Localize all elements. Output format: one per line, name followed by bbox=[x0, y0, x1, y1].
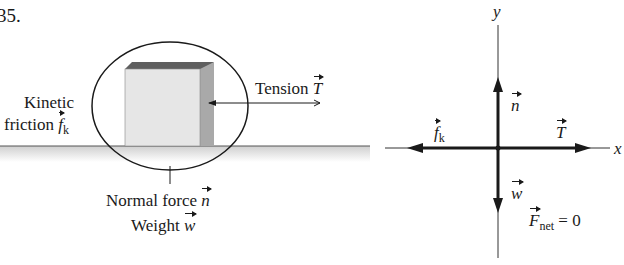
normal-force-label: Normal force n bbox=[106, 192, 210, 209]
friction-symbol: f bbox=[58, 116, 63, 133]
fbd-friction-subscript: k bbox=[439, 131, 445, 145]
weight-text: Weight bbox=[131, 216, 180, 235]
net-force-equation: Fnet = 0 bbox=[529, 212, 581, 232]
tension-arrowhead-icon bbox=[575, 143, 591, 153]
tension-symbol: T bbox=[313, 80, 322, 97]
weight-symbol: w bbox=[184, 217, 195, 234]
tension-label: Tension T bbox=[255, 80, 322, 97]
fbd-tension-label: T bbox=[556, 124, 565, 141]
net-force-symbol: F bbox=[529, 212, 539, 229]
problem-number: 35. bbox=[0, 6, 21, 25]
ground-surface bbox=[0, 146, 370, 162]
x-axis-label: x bbox=[614, 140, 622, 157]
kinetic-label: Kinetic bbox=[24, 94, 74, 111]
fbd-normal-symbol: n bbox=[511, 97, 520, 114]
friction-label: friction fk bbox=[4, 116, 69, 136]
weight-arrowhead-icon bbox=[493, 198, 503, 213]
normal-arrowhead-icon bbox=[493, 77, 503, 92]
normal-text: Normal force bbox=[106, 191, 197, 210]
net-force-value: = 0 bbox=[558, 211, 580, 230]
net-force-subscript: net bbox=[539, 219, 554, 233]
fbd-friction-label: fk bbox=[434, 124, 445, 144]
fbd-normal-label: n bbox=[511, 97, 520, 114]
fbd-tension-symbol: T bbox=[556, 124, 565, 141]
friction-arrowhead-icon bbox=[407, 143, 423, 153]
box-block bbox=[125, 62, 214, 146]
y-axis-label: y bbox=[493, 3, 501, 20]
normal-symbol: n bbox=[201, 192, 210, 209]
fbd-weight-symbol: w bbox=[511, 185, 522, 202]
tension-text: Tension bbox=[255, 79, 309, 98]
fbd-weight-label: w bbox=[511, 185, 522, 202]
friction-subscript: k bbox=[63, 123, 69, 137]
weight-label: Weight w bbox=[131, 217, 195, 234]
fbd-friction-symbol: f bbox=[434, 124, 439, 141]
friction-text: friction bbox=[4, 115, 54, 134]
particle-origin bbox=[496, 146, 501, 151]
